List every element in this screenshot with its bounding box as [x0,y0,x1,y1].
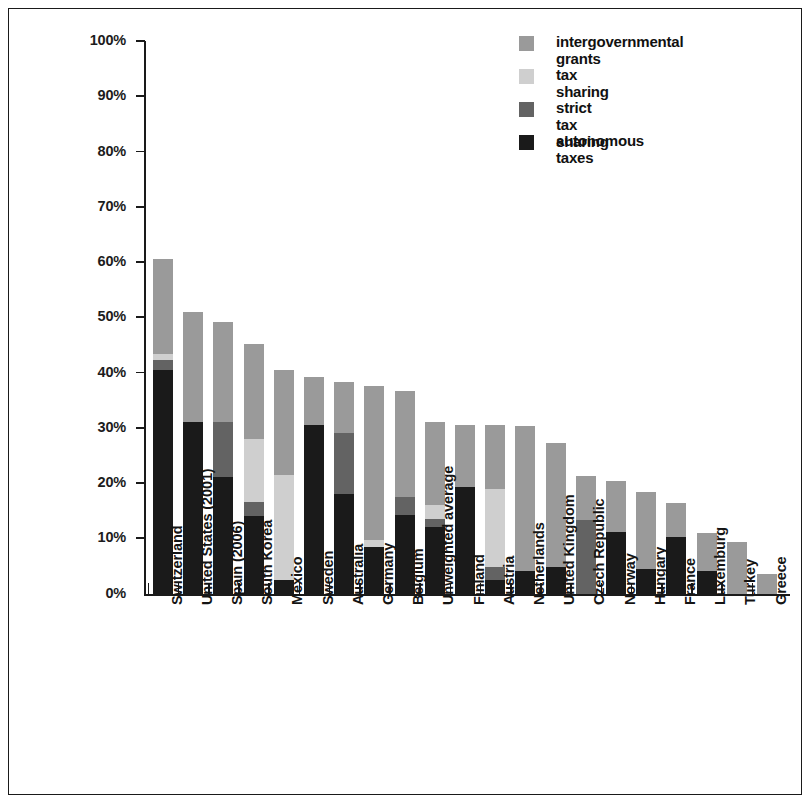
y-tick-mark-40 [136,372,145,374]
x-label-greece: Greece [773,556,789,605]
y-tick-mark-30 [136,427,145,429]
x-label-austria: Austria [501,556,517,605]
x-label-finland: Finland [471,554,487,605]
y-tick-mark-70 [136,206,145,208]
segment-tax-sharing [153,354,173,360]
y-tick-label-80: 80% [60,143,126,159]
segment-intergovernmental-grants [334,382,354,433]
x-label-spain-2006: Spain (2006) [229,521,245,605]
segment-intergovernmental-grants [153,259,173,354]
x-label-belgium: Belgium [410,548,426,605]
x-label-netherlands: Netherlands [531,522,547,605]
segment-intergovernmental-grants [485,425,505,489]
x-label-france: France [682,558,698,605]
y-tick-label-90: 90% [60,87,126,103]
y-tick-label-60: 60% [60,253,126,269]
legend-swatch-tax-sharing [519,69,534,84]
legend-swatch-autonomous-taxes [519,135,534,150]
x-label-mexico: Mexico [289,556,305,605]
x-label-germany: Germany [380,543,396,605]
y-tick-mark-50 [136,316,145,318]
y-tick-label-50: 50% [60,308,126,324]
x-tick-mark [148,583,150,594]
segment-intergovernmental-grants [606,481,626,531]
y-tick-mark-10 [136,537,145,539]
y-tick-label-40: 40% [60,364,126,380]
segment-intergovernmental-grants [666,503,686,536]
segment-intergovernmental-grants [304,377,324,425]
x-label-norway: Norway [622,553,638,605]
y-tick-label-100: 100% [60,32,126,48]
segment-intergovernmental-grants [244,344,264,439]
x-label-united-kingdom: United Kingdom [561,494,577,605]
y-tick-mark-20 [136,482,145,484]
segment-intergovernmental-grants [364,386,384,540]
segment-strict-tax-sharing [153,360,173,369]
y-tick-mark-90 [136,95,145,97]
stacked-bar-chart: 0%10%20%30%40%50%60%70%80%90%100% Switze… [0,0,812,805]
x-label-hungary: Hungary [652,547,668,605]
x-label-sweden: Sweden [320,551,336,605]
x-label-australia: Australia [350,544,366,605]
y-tick-mark-60 [136,261,145,263]
segment-intergovernmental-grants [213,322,233,423]
x-label-luxemburg: Luxemburg [712,527,728,605]
legend-swatch-strict-tax-sharing [519,102,534,117]
legend-label-grants: intergovernmental grants [556,33,683,67]
segment-intergovernmental-grants [274,370,294,475]
segment-strict-tax-sharing [334,433,354,494]
x-label-unweighted-average: Unweighted average [440,466,456,605]
y-tick-label-30: 30% [60,419,126,435]
segment-strict-tax-sharing [244,502,264,516]
y-tick-label-10: 10% [60,529,126,545]
x-label-turkey: Turkey [742,559,758,605]
y-tick-mark-100 [136,40,145,42]
x-label-czech-republic: Czech Republic [591,498,607,605]
segment-strict-tax-sharing [395,497,415,515]
x-label-switzerland: Switzerland [169,526,185,605]
segment-intergovernmental-grants [183,312,203,423]
legend-label-autonomous-taxes: autonomous taxes [556,132,644,166]
legend-label-tax-sharing: tax sharing [556,66,609,100]
segment-strict-tax-sharing [213,422,233,477]
segment-intergovernmental-grants [455,425,475,487]
x-label-united-states-2001: United States (2001) [199,468,215,605]
y-tick-label-20: 20% [60,474,126,490]
legend-swatch-grants [519,36,534,51]
segment-tax-sharing [244,439,264,503]
y-tick-mark-80 [136,151,145,153]
y-axis-line [144,41,146,596]
x-label-south-korea: South Korea [259,520,275,605]
y-tick-label-0: 0% [60,585,126,601]
y-tick-label-70: 70% [60,198,126,214]
segment-intergovernmental-grants [395,391,415,497]
